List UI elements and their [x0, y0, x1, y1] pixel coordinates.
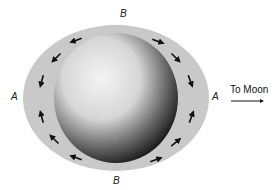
label-b-bottom: B [113, 175, 120, 186]
label-a-left: A [11, 91, 18, 102]
earth-sphere [54, 33, 178, 163]
label-b-top: B [120, 8, 127, 19]
label-a-right: A [212, 91, 219, 102]
tidal-diagram [0, 0, 280, 190]
to-moon-label: To Moon [230, 84, 268, 95]
